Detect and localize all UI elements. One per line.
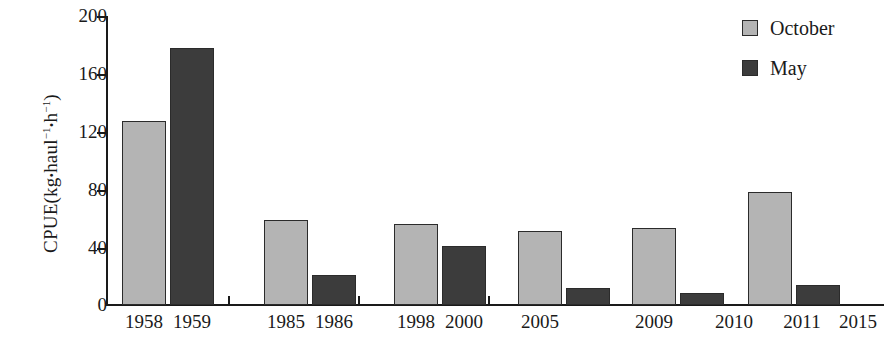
bar-october-2009 [632, 228, 676, 305]
chart-legend: October May [742, 18, 834, 78]
bar-october-1985 [264, 220, 308, 305]
y-tick-label: 80 [61, 180, 107, 199]
bar-chart: CPUE(kg•haul−1•h−1) 200 160 120 80 40 0 [0, 0, 891, 347]
y-tick-label: 40 [61, 238, 107, 257]
x-tick-mark [228, 296, 230, 305]
y-tick-label: 120 [61, 122, 107, 141]
bar-october-2005 [518, 231, 562, 305]
bar-may-1986 [312, 275, 356, 305]
legend-item-may: May [742, 58, 834, 78]
y-tick-label: 0 [61, 295, 107, 314]
legend-label-may: May [770, 58, 807, 78]
legend-item-october: October [742, 18, 834, 38]
y-axis-title-text: CPUE(kg•haul−1•h−1) [40, 94, 62, 253]
x-tick-mark [358, 296, 360, 305]
bar-october-2011 [748, 192, 792, 305]
bar-october-1958 [122, 121, 166, 305]
x-label-1959: 1959 [158, 312, 226, 331]
legend-label-october: October [770, 18, 834, 38]
bar-may-1959 [170, 48, 214, 305]
x-label-2010: 2010 [700, 312, 768, 331]
y-tick-label: 160 [61, 64, 107, 83]
y-axis-line [106, 16, 108, 306]
bar-october-1998 [394, 224, 438, 305]
bar-may-2000 [442, 246, 486, 305]
x-label-2015: 2015 [824, 312, 891, 331]
bar-may-2010 [680, 293, 724, 305]
legend-swatch-may-icon [742, 60, 758, 76]
x-tick-mark [488, 296, 490, 305]
y-tick-label: 200 [61, 6, 107, 25]
x-label-1986: 1986 [300, 312, 368, 331]
x-label-2009: 2009 [620, 312, 688, 331]
legend-swatch-october-icon [742, 20, 758, 36]
x-label-2005: 2005 [506, 312, 574, 331]
x-label-2000: 2000 [430, 312, 498, 331]
bar-may-2015 [796, 285, 840, 305]
bar-may-2006 [566, 288, 610, 305]
